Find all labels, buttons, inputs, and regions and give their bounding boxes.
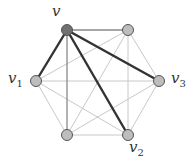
label-v1: v1: [8, 69, 23, 89]
label-v2: v2: [129, 138, 144, 158]
label-v3: v3: [171, 69, 186, 89]
edge-v-v1: [36, 30, 67, 81]
complete-graph-k6: [0, 0, 189, 164]
node-v: [62, 25, 73, 36]
edge-v2-v1: [36, 81, 128, 135]
edge-b-v1: [36, 81, 67, 135]
graph-diagram: v v1 v3 v2: [0, 0, 189, 164]
node-v1: [31, 76, 42, 87]
node-t: [123, 25, 134, 36]
edge-v3-v2: [128, 81, 159, 135]
node-b: [62, 130, 73, 141]
node-v3: [154, 76, 165, 87]
label-v: v: [52, 2, 60, 20]
